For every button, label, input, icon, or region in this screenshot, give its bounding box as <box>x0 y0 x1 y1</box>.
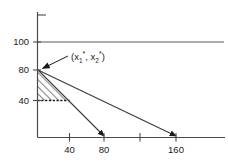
y-tick-label-80: 80 <box>18 64 29 75</box>
optimum-label-sub-1: 1 <box>79 57 83 64</box>
x-tick-label-40: 40 <box>64 144 75 155</box>
optimum-label-close: ) <box>102 51 105 62</box>
optimum-label-leader-line <box>43 56 69 69</box>
constraint-line-steep <box>38 70 104 136</box>
optimum-point-label: (x1*, x2*) <box>71 50 105 63</box>
plot-area: 100 80 40 40 80 160 (x1*, x2*) <box>0 0 228 163</box>
constraint-line-shallow <box>38 70 176 136</box>
y-tick-label-100: 100 <box>13 36 29 47</box>
optimum-label-sub-2: 2 <box>95 57 99 64</box>
x-tick-label-160: 160 <box>168 144 184 155</box>
optimum-label-comma: , x <box>85 51 95 62</box>
chart-figure: 100 80 40 40 80 160 (x1*, x2*) <box>0 0 228 163</box>
x-tick-label-80: 80 <box>99 144 110 155</box>
y-tick-label-40: 40 <box>18 95 29 106</box>
